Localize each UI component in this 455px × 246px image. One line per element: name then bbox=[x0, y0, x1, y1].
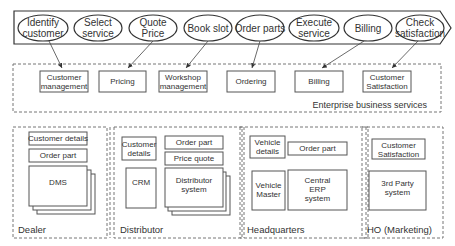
service-architecture-diagram: Identifycustomer Selectservice QuotePric… bbox=[0, 0, 455, 246]
distributor-crm bbox=[126, 168, 156, 208]
svg-text:QuotePrice: QuotePrice bbox=[139, 17, 167, 39]
domain-title-dealer: Dealer bbox=[18, 224, 46, 235]
svg-text:Book slot: Book slot bbox=[187, 23, 228, 34]
svg-text:CustomerSatisfaction: CustomerSatisfaction bbox=[366, 73, 407, 91]
svg-text:Vehicledetails: Vehicledetails bbox=[255, 138, 281, 156]
svg-text:CRM: CRM bbox=[132, 178, 151, 187]
svg-text:Billing: Billing bbox=[308, 77, 329, 86]
svg-text:Price quote: Price quote bbox=[174, 154, 215, 163]
domain-title-distributor: Distributor bbox=[120, 224, 163, 235]
svg-text:Billing: Billing bbox=[355, 23, 382, 34]
step-label: Identifycustomer bbox=[22, 17, 64, 39]
svg-text:CustomerSatisfaction: CustomerSatisfaction bbox=[378, 141, 419, 159]
domain-title-headquarters: Headquarters bbox=[247, 224, 305, 235]
domain-title-ho-marketing: HO (Marketing) bbox=[367, 224, 432, 235]
svg-text:Order parts: Order parts bbox=[235, 23, 286, 34]
svg-text:Selectservice: Selectservice bbox=[82, 17, 114, 39]
svg-text:Customermanagement: Customermanagement bbox=[41, 73, 88, 91]
svg-text:Order part: Order part bbox=[176, 138, 213, 147]
svg-text:Order part: Order part bbox=[299, 144, 336, 153]
svg-text:Order part: Order part bbox=[40, 151, 77, 160]
svg-text:Workshopmanagement: Workshopmanagement bbox=[160, 73, 207, 91]
svg-text:Pricing: Pricing bbox=[110, 77, 134, 86]
svg-text:VehicleMaster: VehicleMaster bbox=[256, 181, 282, 199]
svg-text:Ordering: Ordering bbox=[235, 77, 266, 86]
enterprise-services-title: Enterprise business services bbox=[312, 100, 427, 110]
svg-text:Executeservice: Executeservice bbox=[296, 17, 333, 39]
svg-text:Customer details: Customer details bbox=[28, 134, 88, 143]
svg-text:3rd Partysystem: 3rd Partysystem bbox=[381, 179, 413, 197]
svg-text:DMS: DMS bbox=[49, 178, 67, 187]
